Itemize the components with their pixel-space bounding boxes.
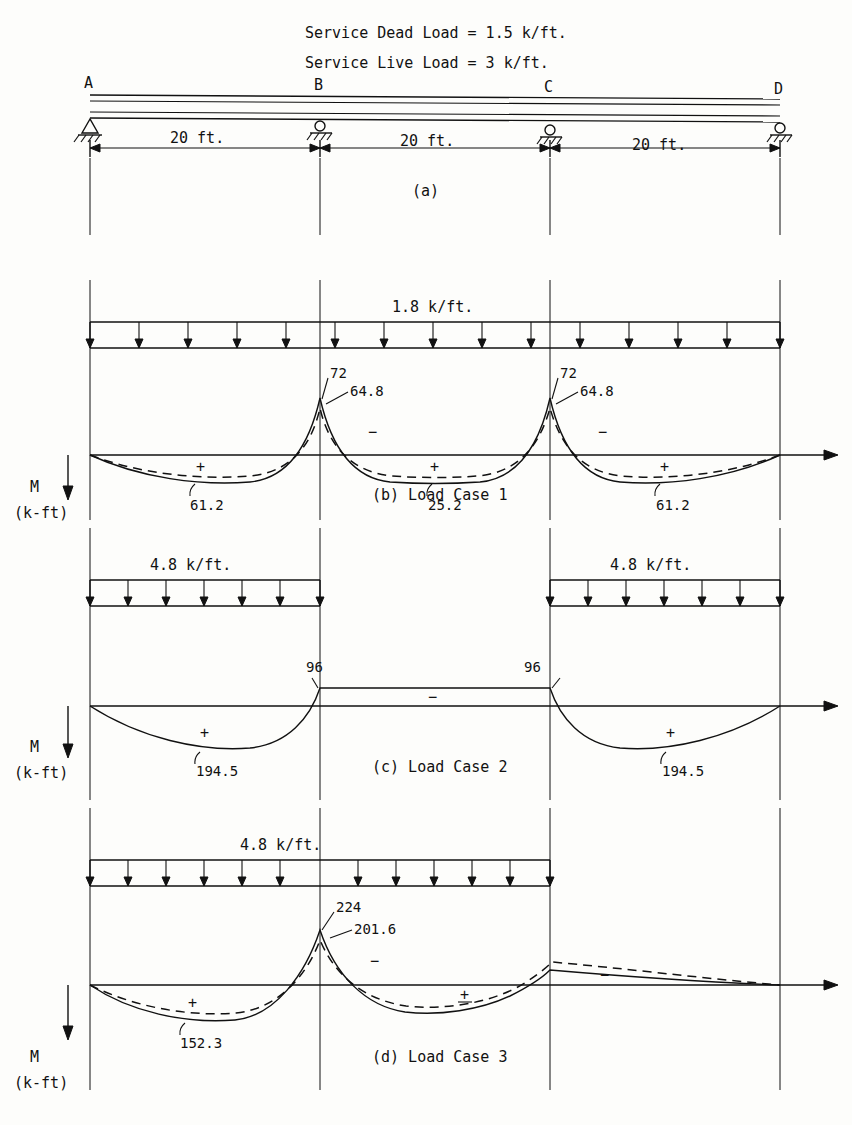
support-b-roller: [307, 121, 332, 140]
lc2-moment-b: 96: [306, 659, 323, 675]
lc2-axis-label: M (k-ft): [14, 706, 73, 782]
lc3-sign-minus-cd: −: [600, 966, 609, 984]
span-label-ab: 20 ft.: [170, 129, 224, 147]
figure-page: Service Dead Load = 1.5 k/ft. Service Li…: [0, 0, 852, 1125]
lc3-sign-plusminus-bc: +: [460, 986, 469, 1004]
lc2-baseline-arrow: [824, 701, 838, 711]
lc1-span-moment-cd: 61.2: [656, 497, 690, 513]
lc3-axis-label: M (k-ft): [14, 985, 73, 1092]
lc3-baseline-arrow: [824, 980, 838, 990]
caption-c: (c) Load Case 2: [372, 758, 507, 776]
load-case-1-load-label: 1.8 k/ft.: [392, 298, 473, 316]
lc2-sign-plus-cd: +: [666, 724, 675, 742]
lc3-leader-b-elastic: [322, 912, 334, 930]
beam-web-line: [90, 101, 780, 105]
lc1-leader-c-elastic: [552, 378, 558, 399]
lc3-axis-symbol: M: [30, 1048, 39, 1066]
beam-bottom-flange: [90, 118, 780, 122]
load-case-2-load-label-right: 4.8 k/ft.: [610, 556, 691, 574]
lc2-axis-symbol: M: [30, 738, 39, 756]
lc1-moment-c-elastic: 72: [560, 365, 577, 381]
service-live-load-label: Service Live Load = 3 k/ft.: [305, 54, 549, 72]
service-dead-load-label: Service Dead Load = 1.5 k/ft.: [305, 24, 567, 42]
lc3-sign-plus-ab: +: [188, 994, 197, 1012]
span-label-bc: 20 ft.: [400, 132, 454, 150]
lc2-leader-b: [312, 678, 318, 688]
lc2-leader-c: [552, 678, 560, 688]
lc1-sign-plus-ab: +: [196, 458, 205, 476]
node-label-b: B: [314, 76, 323, 94]
node-label-d: D: [774, 80, 783, 98]
support-a-pin: [74, 119, 102, 142]
lc1-leader-b-redis: [326, 392, 348, 404]
lc1-axis-units: (k-ft): [14, 504, 68, 522]
lc3-span-moment-ab: 152.3: [180, 1035, 222, 1051]
beam-moment-figure: Service Dead Load = 1.5 k/ft. Service Li…: [0, 0, 852, 1125]
beam-top-flange: [90, 95, 780, 99]
lc3-leader-ab: [180, 1023, 185, 1035]
load-case-2: 4.8 k/ft.: [14, 556, 838, 782]
lc1-span-moment-ab: 61.2: [190, 497, 224, 513]
load-case-1: 1.8 k/ft. 72 64.8 72 64.8 61.2 25.2: [14, 298, 838, 522]
lc1-moment-b-redistributed: 64.8: [350, 383, 384, 399]
lc2-span-moment-ab: 194.5: [196, 763, 238, 779]
lc1-sign-minus-b: −: [368, 423, 377, 441]
lc1-leader-ab: [190, 484, 195, 496]
lc2-sign-plus-ab: +: [200, 724, 209, 742]
lc1-sign-plus-cd: +: [660, 458, 669, 476]
lc1-leader-c-redis: [556, 392, 578, 404]
lc1-moment-c-redistributed: 64.8: [580, 383, 614, 399]
caption-a: (a): [412, 182, 439, 200]
lc1-sign-plus-bc: +: [430, 458, 439, 476]
lc2-sign-minus-bc: −: [428, 688, 437, 706]
node-label-a: A: [84, 74, 93, 92]
lc2-axis-units: (k-ft): [14, 764, 68, 782]
lc1-sign-minus-c: −: [598, 423, 607, 441]
load-case-3-load-label: 4.8 k/ft.: [240, 836, 321, 854]
lc2-span-moment-cd: 194.5: [662, 763, 704, 779]
lc3-moment-b-redistributed: 201.6: [354, 921, 396, 937]
lc1-axis-symbol: M: [30, 478, 39, 496]
lc1-leader-b-elastic: [322, 378, 328, 399]
lc3-moment-b-elastic: 224: [336, 899, 361, 915]
beam-elevation: A B C D: [74, 74, 792, 200]
caption-b: (b) Load Case 1: [372, 486, 507, 504]
beam-web-line-2: [90, 112, 780, 116]
lc1-moment-b-elastic: 72: [330, 365, 347, 381]
lc3-sign-minus-b: −: [370, 952, 379, 970]
caption-d: (d) Load Case 3: [372, 1048, 507, 1066]
load-case-2-load-label-left: 4.8 k/ft.: [150, 556, 231, 574]
node-label-c: C: [544, 78, 553, 96]
load-case-2-udl-right: [546, 580, 784, 606]
lc3-axis-units: (k-ft): [14, 1074, 68, 1092]
lc3-leader-b-redis: [330, 930, 352, 938]
span-label-cd: 20 ft.: [632, 136, 686, 154]
load-case-3: 4.8 k/ft. 224 201.6 152.3 + − + −: [14, 836, 838, 1092]
lc1-axis-label: M (k-ft): [14, 455, 73, 522]
support-d-roller: [767, 123, 792, 142]
lc2-moment-c: 96: [524, 659, 541, 675]
lc1-baseline-arrow: [824, 450, 838, 460]
lc1-leader-cd: [655, 484, 660, 496]
load-case-1-udl: [86, 322, 784, 348]
load-case-2-udl-left: [86, 580, 324, 606]
